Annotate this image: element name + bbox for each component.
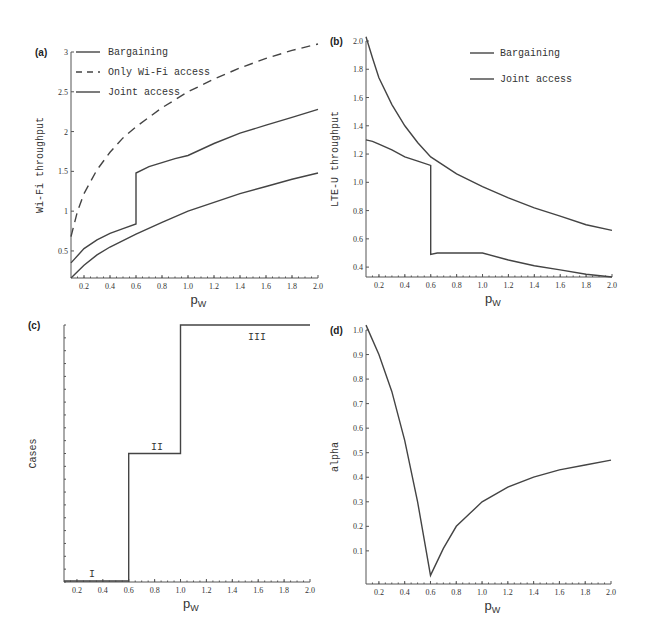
y-tick-label: 0.8: [353, 207, 363, 216]
y-tick-label: 0.5: [353, 449, 363, 458]
x-axis-label: pW: [485, 291, 501, 308]
case-label-iii: III: [248, 332, 266, 343]
x-tick-label: 0.6: [425, 588, 435, 597]
case-label-ii: II: [151, 442, 163, 453]
y-tick-label: 2: [64, 128, 68, 137]
x-tick-label: 0.4: [98, 586, 108, 595]
legend-item: Bargaining: [500, 48, 560, 59]
x-tick-label: 1.4: [529, 588, 539, 597]
panel-c: 0.20.40.60.81.01.21.41.61.82.0pWCases(c): [28, 320, 315, 613]
y-tick-label: 0.6: [353, 235, 363, 244]
x-tick-label: 0.2: [374, 281, 384, 290]
x-tick-label: 2.0: [305, 586, 315, 595]
y-tick-label: 0.1: [353, 547, 363, 556]
y-tick-label: 0.5: [58, 247, 68, 256]
x-tick-label: 1.2: [201, 586, 211, 595]
panel-label: (b): [330, 36, 343, 47]
y-tick-label: 0.8: [353, 375, 363, 384]
y-tick-label: 0.4: [353, 263, 363, 272]
series-cases: [64, 325, 310, 581]
x-tick-label: 0.8: [150, 586, 160, 595]
x-tick-label: 1.4: [529, 281, 539, 290]
axes: [366, 41, 612, 277]
y-axis-label: Cases: [28, 438, 39, 468]
x-tick-label: 2.0: [606, 588, 616, 597]
y-tick-label: 1.4: [353, 122, 363, 131]
x-tick-label: 2.0: [313, 282, 323, 291]
series-bargaining: [366, 140, 612, 277]
y-tick-label: 0.7: [353, 400, 363, 409]
panel-a: 0.20.40.60.81.01.21.41.61.82.00.511.522.…: [35, 44, 323, 309]
legend-item: Joint access: [108, 87, 180, 98]
figure: 0.20.40.60.81.01.21.41.61.82.00.511.522.…: [0, 0, 648, 642]
x-tick-label: 1.4: [227, 586, 237, 595]
y-tick-label: 1.0: [353, 178, 363, 187]
series-bargaining: [71, 109, 318, 263]
y-tick-label: 0.2: [353, 522, 363, 531]
y-tick-label: 0.4: [353, 473, 363, 482]
x-tick-label: 1.0: [176, 586, 186, 595]
x-tick-label: 0.6: [426, 281, 436, 290]
y-tick-label: 1.0: [353, 326, 363, 335]
x-tick-label: 1.2: [503, 281, 513, 290]
x-tick-label: 1.0: [478, 281, 488, 290]
x-tick-label: 2.0: [607, 281, 617, 290]
y-tick-label: 1: [64, 207, 68, 216]
y-tick-label: 1.6: [353, 94, 363, 103]
y-axis-label: alpha: [330, 442, 341, 472]
y-tick-label: 0.3: [353, 498, 363, 507]
y-tick-label: 1.2: [353, 150, 363, 159]
x-axis-label: pW: [485, 598, 501, 615]
x-tick-label: 1.6: [261, 282, 271, 291]
x-tick-label: 1.6: [253, 586, 263, 595]
series-alpha: [366, 325, 611, 575]
x-tick-label: 0.2: [374, 588, 384, 597]
panel-d: 0.20.40.60.81.01.21.41.61.82.00.10.20.30…: [330, 325, 616, 615]
x-tick-label: 1.0: [477, 588, 487, 597]
case-label-i: I: [89, 569, 95, 580]
x-tick-label: 1.6: [555, 281, 565, 290]
legend-item: Joint access: [500, 74, 572, 85]
series-joint-access: [366, 37, 612, 231]
x-tick-label: 1.6: [554, 588, 564, 597]
x-tick-label: 0.6: [131, 282, 141, 291]
legend-item: Bargaining: [108, 47, 168, 58]
y-tick-label: 0.6: [353, 424, 363, 433]
x-tick-label: 0.6: [124, 586, 134, 595]
y-tick-label: 1.5: [58, 167, 68, 176]
legend-item: Only Wi-Fi access: [108, 67, 210, 78]
y-tick-label: 2.0: [353, 37, 363, 46]
x-tick-label: 1.0: [183, 282, 193, 291]
legend-b: BargainingJoint access: [470, 48, 572, 85]
x-tick-label: 1.4: [235, 282, 245, 291]
panel-label: (c): [28, 320, 40, 331]
x-tick-label: 0.4: [400, 281, 410, 290]
panel-label: (d): [330, 325, 343, 336]
x-axis-label: pW: [191, 292, 207, 309]
y-tick-label: 3: [64, 48, 68, 57]
y-tick-label: 1.8: [353, 65, 363, 74]
panel-b: 0.20.40.60.81.01.21.41.61.82.00.40.60.81…: [330, 36, 617, 308]
y-tick-label: 0.9: [353, 351, 363, 360]
x-tick-label: 1.2: [503, 588, 513, 597]
x-tick-label: 0.8: [452, 281, 462, 290]
panel-label: (a): [35, 47, 47, 58]
x-tick-label: 0.4: [400, 588, 410, 597]
x-tick-label: 0.2: [79, 282, 89, 291]
axes: [64, 325, 310, 582]
x-tick-label: 1.8: [580, 588, 590, 597]
y-axis-label: Wi-Fi throughput: [35, 117, 46, 213]
x-tick-label: 0.8: [451, 588, 461, 597]
x-tick-label: 1.8: [287, 282, 297, 291]
x-tick-label: 1.8: [581, 281, 591, 290]
x-tick-label: 1.8: [279, 586, 289, 595]
axes: [366, 330, 611, 584]
x-tick-label: 0.4: [105, 282, 115, 291]
y-axis-label: LTE-U throughput: [330, 111, 341, 207]
x-axis-label: pW: [183, 596, 199, 613]
axes: [71, 52, 318, 278]
x-tick-label: 1.2: [209, 282, 219, 291]
series-joint-access: [71, 173, 318, 278]
y-tick-label: 2.5: [58, 88, 68, 97]
x-tick-label: 0.8: [157, 282, 167, 291]
